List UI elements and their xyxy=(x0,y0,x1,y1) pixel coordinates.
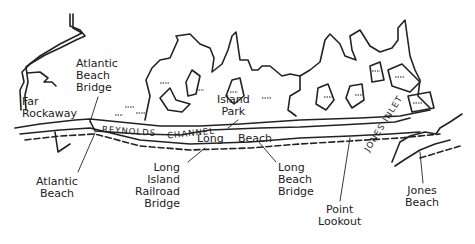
label-lirr-bridge: Long Island Railroad Bridge xyxy=(135,162,180,210)
label-long-beach-bridge: Long Beach Bridge xyxy=(278,162,314,198)
label-beach: Beach xyxy=(238,133,272,145)
label-far-rockaway: Far Rockaway xyxy=(22,96,77,120)
label-island-park: Island Park xyxy=(217,94,250,118)
label-atlantic-beach-bridge: Atlantic Beach Bridge xyxy=(76,58,118,94)
leader-point-lookout xyxy=(340,138,350,201)
map-canvas xyxy=(0,0,475,244)
label-atlantic-beach: Atlantic Beach xyxy=(36,176,78,200)
label-point-lookout: Point Lookout xyxy=(318,204,361,228)
leader-atlantic-beach-bridge xyxy=(90,97,98,122)
label-jones-beach: Jones Beach xyxy=(405,185,439,209)
leader-atlantic-beach xyxy=(78,133,95,172)
